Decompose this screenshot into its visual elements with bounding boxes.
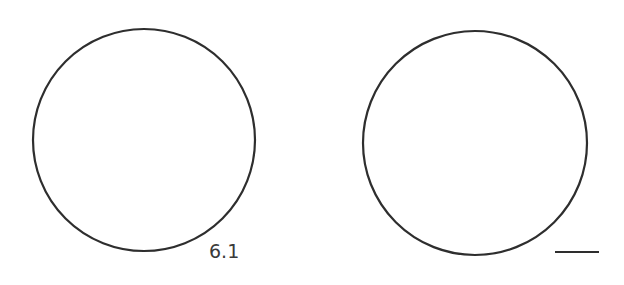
left-circle: [33, 29, 255, 251]
diagram-canvas: 6.1: [0, 0, 624, 285]
right-circle: [363, 31, 587, 255]
left-circle-radius-label: 6.1: [209, 240, 239, 262]
